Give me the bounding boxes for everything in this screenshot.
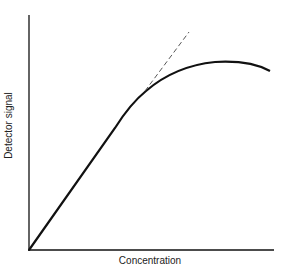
x-axis-label: Concentration: [0, 255, 285, 266]
calibration-curve-chart: [0, 0, 285, 277]
response-curve: [29, 62, 270, 250]
y-axis-label: Detector signal: [3, 76, 14, 176]
linear-extrapolation-dashed: [145, 32, 189, 91]
